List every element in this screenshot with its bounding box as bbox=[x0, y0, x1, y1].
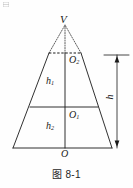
label-height-h2-subscript: 2 bbox=[51, 124, 54, 131]
figure-container: V O2 h1 O1 h2 O h 图 8-1 bbox=[0, 0, 133, 188]
figure-caption: 图 8-1 bbox=[0, 166, 133, 181]
label-point-o: O bbox=[61, 149, 68, 159]
label-height-h2: h2 bbox=[46, 121, 54, 132]
trapezoid-left-side bbox=[13, 53, 49, 148]
label-point-o2: O2 bbox=[69, 55, 79, 66]
apex-line-left bbox=[49, 25, 65, 53]
label-point-o2-subscript: 2 bbox=[76, 58, 79, 65]
label-apex-v: V bbox=[60, 14, 67, 25]
dimension-arrow-down bbox=[115, 141, 120, 148]
scan-artifact bbox=[3, 2, 9, 7]
label-point-o1: O1 bbox=[69, 110, 79, 121]
trapezoid-right-side bbox=[81, 53, 112, 148]
dimension-arrow-up bbox=[115, 56, 120, 63]
label-height-h1-subscript: 1 bbox=[51, 79, 54, 86]
label-height-h1: h1 bbox=[46, 76, 54, 87]
label-total-height-h: h bbox=[105, 95, 115, 100]
apex-line-right bbox=[65, 25, 81, 53]
label-point-o1-subscript: 1 bbox=[76, 113, 79, 120]
